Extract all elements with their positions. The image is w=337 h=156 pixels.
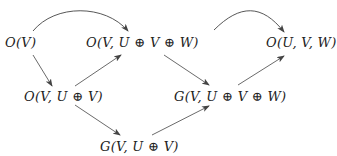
node-g-v-uv: G(V, U ⊕ V) xyxy=(100,139,179,155)
node-o-v-uv: O(V, U ⊕ V) xyxy=(24,89,103,105)
node-o-v-uvw: O(V, U ⊕ V ⊕ W) xyxy=(86,35,199,51)
arrow-ovuvw-to-ouvw-curved xyxy=(214,11,284,32)
arrow-ovuv-to-ovuvw xyxy=(75,55,121,86)
node-o-v: O(V) xyxy=(5,35,36,51)
arrow-ov-to-ovuv xyxy=(33,55,52,86)
arrow-ov-to-ovuvw-curved xyxy=(33,11,128,31)
arrow-ovuv-to-gvuv xyxy=(75,105,120,135)
arrow-gvuvw-to-ouvw xyxy=(238,56,284,85)
node-g-v-uvw: G(V, U ⊕ V ⊕ W) xyxy=(174,89,286,105)
node-o-u-v-w: O(U, V, W) xyxy=(266,35,337,51)
arrow-gvuv-to-gvuvw xyxy=(152,106,209,135)
arrow-ovuvw-to-gvuvw xyxy=(164,55,209,85)
